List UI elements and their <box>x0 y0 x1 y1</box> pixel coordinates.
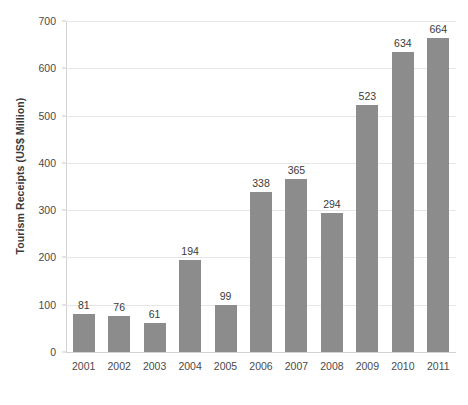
bar[interactable] <box>285 179 307 352</box>
y-axis-tick-label: 0 <box>22 346 56 358</box>
bar-chart: Tourism Receipts (US$ Million) 010020030… <box>0 0 468 405</box>
bar[interactable] <box>250 192 272 352</box>
bar[interactable] <box>108 316 130 352</box>
bar-value-label: 76 <box>113 301 125 313</box>
y-axis-tick-label: 500 <box>22 110 56 122</box>
bar[interactable] <box>144 323 166 352</box>
bar-value-label: 523 <box>359 90 377 102</box>
bar[interactable] <box>73 314 95 352</box>
bars-container: 81766119499338365294523634664 <box>66 21 456 352</box>
x-axis-tick-labels: 2001200220032004200520062007200820092010… <box>66 360 456 380</box>
bar[interactable] <box>427 38 449 352</box>
bar-value-label: 194 <box>181 245 199 257</box>
bar-value-label: 294 <box>323 198 341 210</box>
bar-value-label: 81 <box>78 299 90 311</box>
x-axis-tick-label: 2011 <box>415 360 461 372</box>
bar[interactable] <box>356 105 378 352</box>
bar[interactable] <box>215 305 237 352</box>
y-axis-tick-label: 200 <box>22 251 56 263</box>
y-axis-title: Tourism Receipts (US$ Million) <box>8 0 32 352</box>
bar-value-label: 338 <box>252 177 270 189</box>
y-axis-tick-label: 600 <box>22 62 56 74</box>
y-axis-title-text: Tourism Receipts (US$ Million) <box>14 98 26 255</box>
gridline <box>66 352 456 353</box>
bar-value-label: 365 <box>288 164 306 176</box>
plot-area: 81766119499338365294523634664 <box>66 21 456 352</box>
bar[interactable] <box>321 213 343 352</box>
bar-value-label: 664 <box>430 23 448 35</box>
bar-value-label: 634 <box>394 37 412 49</box>
y-axis-tick-label: 700 <box>22 15 56 27</box>
bar[interactable] <box>179 260 201 352</box>
y-axis-tick-label: 100 <box>22 299 56 311</box>
bar-value-label: 99 <box>220 290 232 302</box>
y-axis-tick-label: 300 <box>22 204 56 216</box>
bar[interactable] <box>392 52 414 352</box>
y-axis-tick-label: 400 <box>22 157 56 169</box>
bar-value-label: 61 <box>149 308 161 320</box>
